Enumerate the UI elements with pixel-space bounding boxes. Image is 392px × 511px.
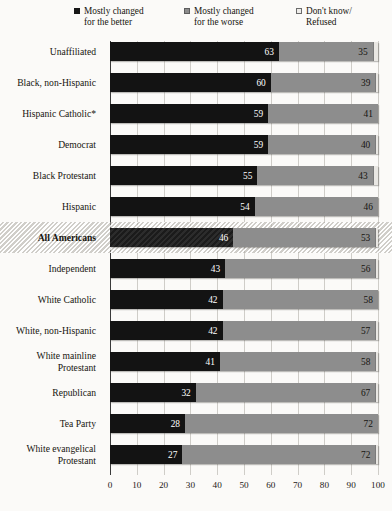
stacked-bar: 4653: [110, 228, 378, 247]
chart-row: Republican3267: [110, 383, 378, 402]
bar-segment-dk: [373, 166, 378, 185]
category-label: Tea Party: [0, 418, 96, 429]
bar-segment-worse: 40: [268, 135, 375, 154]
bar-value-label: 35: [358, 47, 372, 57]
stacked-bar: 4158: [110, 352, 378, 371]
category-label: Unaffiliated: [0, 46, 96, 57]
bar-segment-better: 60: [110, 73, 271, 92]
category-label: Republican: [0, 387, 96, 398]
bar-segment-worse: 57: [223, 321, 376, 340]
bar-value-label: 67: [361, 388, 375, 398]
chart-row: White mainlineProtestant4158: [110, 352, 378, 371]
x-axis-tick-label: 30: [186, 480, 195, 490]
gray-square-icon: [184, 8, 190, 14]
x-axis-tick-label: 90: [347, 480, 356, 490]
bar-segment-better: 54: [110, 197, 255, 216]
bar-segment-better: 28: [110, 414, 185, 433]
bar-segment-worse: 35: [279, 42, 373, 61]
bar-segment-dk: [375, 383, 378, 402]
stacked-bar: 6039: [110, 73, 378, 92]
stacked-bar-chart: Mostly changedfor the better Mostly chan…: [0, 0, 392, 511]
x-axis-tick-label: 100: [371, 480, 385, 490]
bar-segment-worse: 58: [223, 290, 378, 309]
stacked-bar: 2872: [110, 414, 378, 433]
legend-label-line2: Refused: [306, 17, 336, 27]
bar-value-label: 58: [361, 357, 375, 367]
bar-segment-worse: 58: [220, 352, 375, 371]
bar-segment-dk: [375, 228, 378, 247]
bar-value-label: 28: [171, 419, 185, 429]
bar-value-label: 57: [361, 326, 375, 336]
plot-area: Unaffiliated6335Black, non-Hispanic6039H…: [110, 41, 378, 475]
bar-value-label: 58: [364, 295, 378, 305]
chart-row: Tea Party2872: [110, 414, 378, 433]
legend-label-line2: for the better: [84, 17, 132, 27]
stacked-bar: 5543: [110, 166, 378, 185]
bar-segment-worse: 41: [268, 104, 378, 123]
bar-value-label: 63: [264, 47, 278, 57]
chart-row: White Catholic4258: [110, 290, 378, 309]
bar-value-label: 32: [181, 388, 195, 398]
chart-row: Black, non-Hispanic6039: [110, 73, 378, 92]
category-label: Hispanic Catholic*: [0, 108, 96, 119]
bar-segment-better: 59: [110, 135, 268, 154]
bar-segment-better: 42: [110, 321, 223, 340]
chart-legend: Mostly changedfor the better Mostly chan…: [0, 6, 392, 36]
x-axis-tick-label: 20: [159, 480, 168, 490]
category-label: Independent: [0, 263, 96, 274]
bar-value-label: 54: [240, 202, 254, 212]
bar-value-label: 43: [211, 264, 225, 274]
chart-row: Independent4356: [110, 259, 378, 278]
category-label: White mainlineProtestant: [0, 350, 96, 373]
category-label: Democrat: [0, 139, 96, 150]
category-label: White, non-Hispanic: [0, 325, 96, 336]
bar-segment-better: 32: [110, 383, 196, 402]
chart-row: Black Protestant5543: [110, 166, 378, 185]
bar-value-label: 59: [254, 109, 268, 119]
x-axis-tick-label: 60: [266, 480, 275, 490]
chart-row: White, non-Hispanic4257: [110, 321, 378, 340]
x-axis: 0102030405060708090100: [110, 480, 378, 496]
category-label: Hispanic: [0, 201, 96, 212]
chart-row: White evangelicalProtestant2772: [110, 445, 378, 464]
bar-segment-worse: 67: [196, 383, 376, 402]
x-axis-tick-label: 70: [293, 480, 302, 490]
bar-segment-better: 42: [110, 290, 223, 309]
bar-segment-better: 59: [110, 104, 268, 123]
bar-segment-dk: [375, 259, 378, 278]
x-axis-tick-label: 0: [108, 480, 113, 490]
bar-value-label: 39: [361, 78, 375, 88]
bar-segment-dk: [375, 135, 378, 154]
bar-segment-dk: [375, 445, 378, 464]
category-label: All Americans: [0, 232, 96, 243]
stacked-bar: 3267: [110, 383, 378, 402]
stacked-bar: 5446: [110, 197, 378, 216]
category-label: Black, non-Hispanic: [0, 77, 96, 88]
bar-segment-worse: 56: [225, 259, 375, 278]
x-axis-tick-label: 80: [320, 480, 329, 490]
bar-segment-worse: 39: [271, 73, 376, 92]
bar-value-label: 41: [206, 357, 220, 367]
bar-segment-dk: [375, 321, 378, 340]
stacked-bar: 6335: [110, 42, 378, 61]
grid-line: [378, 41, 379, 475]
bar-value-label: 43: [358, 171, 372, 181]
bar-value-label: 59: [254, 140, 268, 150]
bar-value-label: 42: [208, 326, 222, 336]
chart-row: Hispanic5446: [110, 197, 378, 216]
legend-item-mostly-changed-for-the-worse: Mostly changedfor the worse: [184, 6, 254, 28]
stacked-bar: 4356: [110, 259, 378, 278]
stacked-bar: 5941: [110, 104, 378, 123]
bar-value-label: 60: [256, 78, 270, 88]
bar-value-label: 72: [364, 419, 378, 429]
bar-value-label: 40: [361, 140, 375, 150]
black-square-icon: [74, 8, 80, 14]
bar-value-label: 46: [219, 233, 233, 243]
stacked-bar: 4257: [110, 321, 378, 340]
bar-value-label: 41: [364, 109, 378, 119]
chart-row: Unaffiliated6335: [110, 42, 378, 61]
legend-label-line1: Don't know/: [306, 6, 352, 16]
bar-segment-better: 55: [110, 166, 257, 185]
chart-row: Hispanic Catholic*5941: [110, 104, 378, 123]
bar-segment-worse: 53: [233, 228, 375, 247]
